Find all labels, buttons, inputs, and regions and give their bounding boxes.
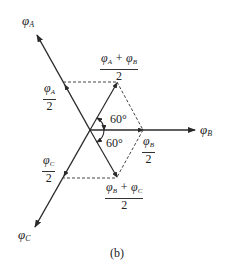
figure-caption: (b) [110,246,124,261]
phi-b-label: φB [200,123,212,138]
angle-arc-lower [97,130,104,142]
phi-c-label: φC [18,228,31,243]
angle-arc-upper-start [97,118,104,130]
phasor-diagram [0,0,226,269]
half-phi-b-label: φB 2 [142,135,155,166]
angle-lower-label: 60° [106,136,123,151]
half-phi-c-label: φC 2 [42,154,55,185]
sum-bc-label: φB + φC 2 [105,181,143,212]
half-a-arrow [65,85,90,130]
angle-upper-label: 60° [110,112,127,127]
half-phi-a-label: φA 2 [43,82,56,113]
half-c-arrow [64,130,90,176]
sum-ab-label: φA + φB 2 [100,52,138,83]
phi-a-label: φA [22,14,34,29]
